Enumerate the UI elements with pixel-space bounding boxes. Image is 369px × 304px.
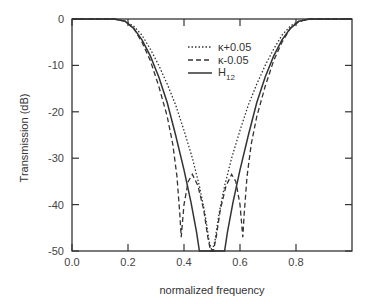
axis-ticks [72,19,352,251]
series-solid [72,19,352,251]
y-axis-label: Transmission (dB) [18,94,30,183]
x-tick-label: 0.4 [176,256,191,268]
legend-label-h12: H12 [218,66,235,81]
y-tick-label: -20 [24,106,64,118]
y-tick-label: 0 [24,13,64,25]
legend-swatches [188,47,212,73]
y-tick-label: -30 [24,152,64,164]
series-dotted [72,19,352,251]
legend-label-kappa-minus: κ-0.05 [218,54,249,66]
y-tick-label: -50 [24,245,64,257]
y-tick-label: -10 [24,59,64,71]
legend-label-kappa-plus: κ+0.05 [218,41,251,53]
x-tick-label: 0.8 [288,256,303,268]
plot-frame [72,19,352,251]
y-tick-label: -40 [24,199,64,211]
x-axis-label: normalized frequency [159,284,264,296]
legend-h12-main: H [218,66,226,78]
x-tick-label: 0.0 [64,256,79,268]
legend-h12-sub: 12 [226,73,235,82]
x-tick-label: 0.6 [232,256,247,268]
series-dashed [72,19,352,251]
curves [72,19,352,251]
x-tick-label: 0.2 [120,256,135,268]
